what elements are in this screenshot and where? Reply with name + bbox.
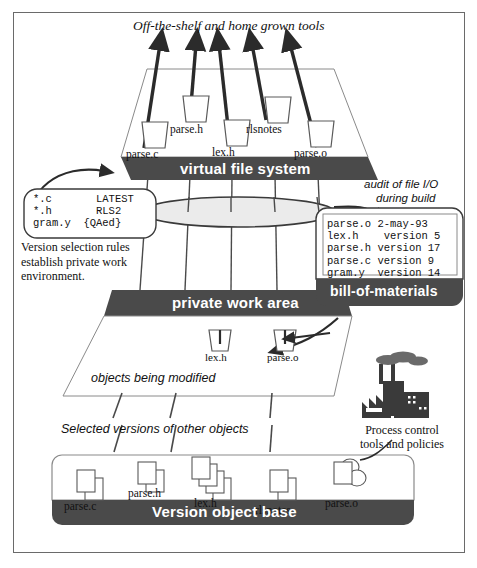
vfs-label-rlsnotes: rlsnotes bbox=[246, 123, 282, 135]
vfs-banner-label: virtual file system bbox=[180, 160, 311, 177]
figure-top-caption: Off-the-shelf and home grown tools bbox=[133, 18, 325, 34]
vfs-label-parse-o: parse.o bbox=[294, 147, 327, 159]
bom-banner-label: bill-of-materials bbox=[330, 283, 438, 299]
vob-label-parse-h: parse.h bbox=[128, 487, 161, 499]
workarea-label-parse-o: parse.o bbox=[267, 351, 298, 363]
vfs-to-workarea-connectors bbox=[140, 175, 323, 290]
audit-caption-line2: during build bbox=[376, 192, 435, 204]
workarea-label-lex-h: lex.h bbox=[205, 351, 227, 363]
vfs-file-icon-parse-c[interactable] bbox=[142, 122, 168, 148]
work-area-banner-label: private work area bbox=[172, 294, 299, 311]
process-control-line1: Process control bbox=[340, 423, 464, 437]
vfs-label-lex-h: lex.h bbox=[212, 146, 235, 158]
bom-text: parse.o 2-may-93 lex.h version 5 parse.h… bbox=[327, 218, 440, 279]
vfs-file-icon-parse-h[interactable] bbox=[183, 96, 209, 122]
vob-label-parse-o: parse.o bbox=[325, 497, 358, 509]
diagram-canvas: Off-the-shelf and home grown tools parse… bbox=[0, 0, 477, 568]
vfs-file-icon-rlsnotes[interactable] bbox=[265, 97, 291, 123]
process-control-line2: tools and policies bbox=[340, 437, 464, 451]
config-spec-text: *.c LATEST *.h RLS2 gram.y {QAed} bbox=[33, 193, 134, 230]
vfs-file-icon-parse-o[interactable] bbox=[308, 121, 334, 147]
vob-label-parse-c: parse.c bbox=[64, 500, 96, 512]
audit-caption-line1: audit of file I/O bbox=[364, 178, 438, 190]
factory-icon bbox=[362, 352, 429, 420]
workarea-file-icon-lex-h[interactable] bbox=[209, 330, 231, 351]
vob-banner-label: Version object base bbox=[152, 503, 297, 520]
workarea-file-icon-parse-o[interactable] bbox=[274, 330, 296, 351]
selected-versions-caption: Selected versions of other objects bbox=[61, 422, 249, 436]
vfs-label-parse-c: parse.c bbox=[126, 148, 158, 160]
objects-modified-caption: objects being modified bbox=[91, 371, 215, 385]
version-selection-ellipse bbox=[142, 197, 334, 227]
config-spec-caption: Version selection rules establish privat… bbox=[21, 240, 167, 284]
vfs-label-parse-h: parse.h bbox=[170, 123, 203, 135]
